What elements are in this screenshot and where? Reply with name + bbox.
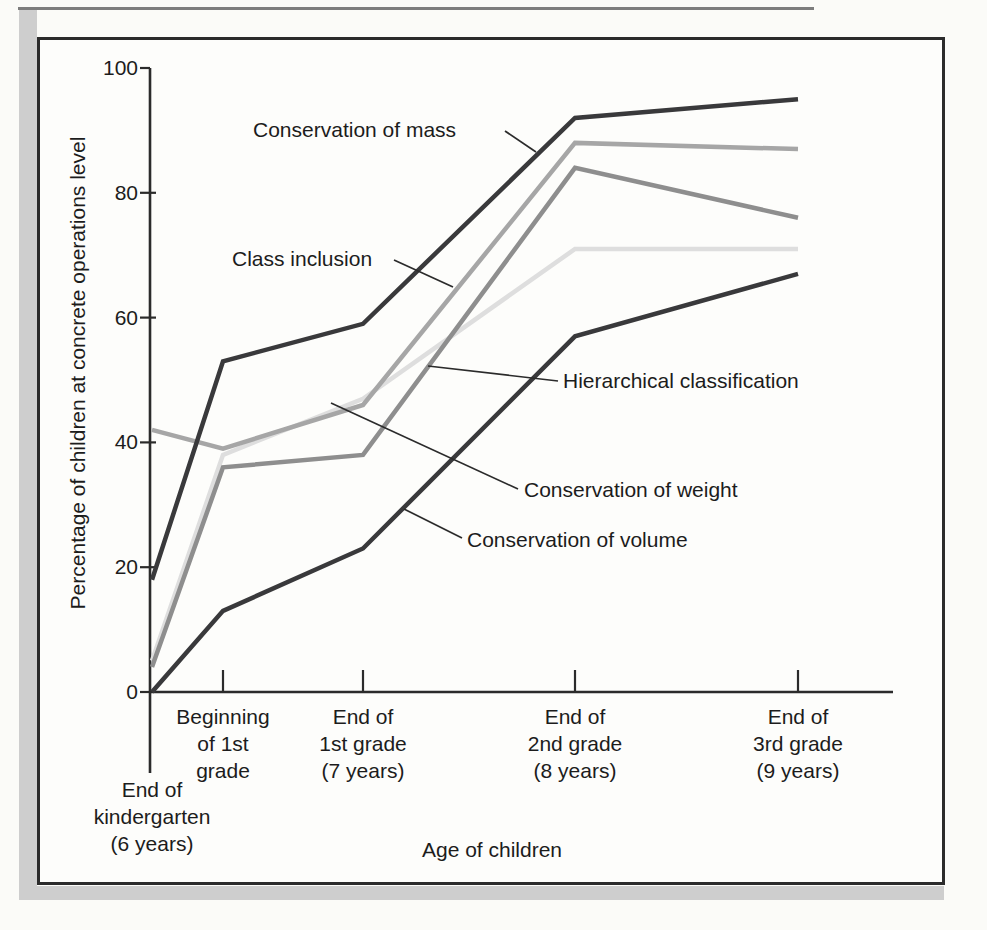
page: Percentage of children at concrete opera… bbox=[0, 0, 987, 930]
annotation-conservation-of-volume: Conservation of volume bbox=[467, 527, 688, 553]
y-tick-label-100: 100 bbox=[86, 55, 138, 81]
x-tick-label-line: (9 years) bbox=[708, 757, 888, 784]
annotation-conservation-of-mass: Conservation of mass bbox=[253, 117, 456, 143]
x-tick-label-line: (6 years) bbox=[62, 830, 242, 857]
x-tick-label-2: End of1st grade(7 years) bbox=[273, 703, 453, 784]
leader-line-conservation-of-weight bbox=[331, 403, 518, 489]
x-tick-label-3: End of2nd grade(8 years) bbox=[485, 703, 665, 784]
y-tick-label-60: 60 bbox=[86, 305, 138, 331]
x-tick-label-line: 1st grade bbox=[273, 730, 453, 757]
y-tick-label-40: 40 bbox=[86, 429, 138, 455]
x-tick-label-4: End of3rd grade(9 years) bbox=[708, 703, 888, 784]
annotation-class-inclusion: Class inclusion bbox=[232, 246, 372, 272]
x-tick-label-line: End of bbox=[485, 703, 665, 730]
x-tick-label-line: kindergarten bbox=[62, 803, 242, 830]
leader-line-conservation-of-volume bbox=[404, 509, 462, 538]
annotation-conservation-of-weight: Conservation of weight bbox=[524, 477, 738, 503]
x-tick-label-0: End ofkindergarten(6 years) bbox=[62, 776, 242, 857]
leader-line-conservation-of-mass bbox=[505, 131, 536, 152]
series-line-class-inclusion bbox=[152, 143, 798, 449]
series-line-hierarchical-classification bbox=[152, 168, 798, 667]
x-tick-label-line: End of bbox=[708, 703, 888, 730]
x-tick-label-line: 2nd grade bbox=[485, 730, 665, 757]
x-tick-label-line: End of bbox=[273, 703, 453, 730]
x-axis-title: Age of children bbox=[382, 837, 602, 863]
x-tick-label-line: 3rd grade bbox=[708, 730, 888, 757]
x-tick-label-line: (8 years) bbox=[485, 757, 665, 784]
series-line-conservation-of-mass bbox=[152, 99, 798, 579]
x-tick-label-line: (7 years) bbox=[273, 757, 453, 784]
annotation-hierarchical-classification: Hierarchical classification bbox=[563, 368, 799, 394]
y-tick-label-0: 0 bbox=[86, 679, 138, 705]
y-tick-label-80: 80 bbox=[86, 180, 138, 206]
y-axis-title: Percentage of children at concrete opera… bbox=[65, 73, 91, 673]
y-tick-label-20: 20 bbox=[86, 554, 138, 580]
